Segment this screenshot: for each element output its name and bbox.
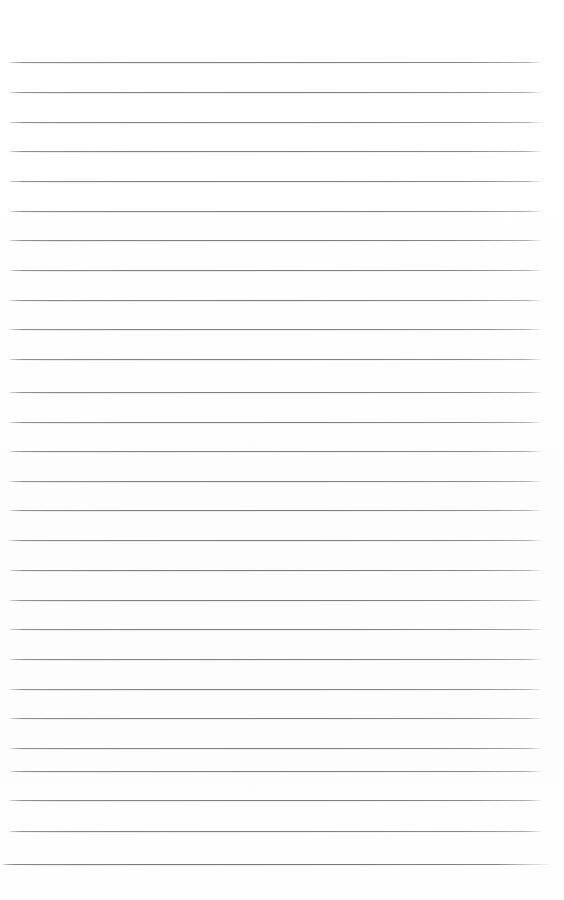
rule-line <box>8 392 543 393</box>
rule-line <box>8 329 543 330</box>
rule-line <box>8 422 543 423</box>
scanned-page <box>0 0 564 900</box>
rule-line <box>8 211 543 212</box>
rule-line <box>8 748 543 749</box>
rule-line <box>8 181 543 182</box>
rule-line <box>8 240 543 241</box>
rule-line <box>8 718 543 719</box>
rule-line <box>8 600 543 601</box>
rule-line <box>8 300 543 301</box>
rule-line <box>8 270 543 271</box>
rule-line <box>8 540 543 541</box>
rule-line <box>8 62 543 63</box>
rule-line <box>8 629 543 630</box>
rule-line <box>8 510 543 511</box>
rule-line <box>8 481 543 482</box>
ruled-lines-layer <box>0 0 564 900</box>
rule-line <box>8 359 543 360</box>
rule-line <box>8 451 543 452</box>
rule-line <box>8 92 543 93</box>
rule-line <box>8 689 543 690</box>
rule-line <box>8 800 543 801</box>
rule-line <box>8 771 543 772</box>
rule-line <box>8 122 543 123</box>
rule-line <box>8 831 543 832</box>
rule-line <box>2 864 552 865</box>
rule-line <box>8 659 543 660</box>
rule-line <box>8 570 543 571</box>
rule-line <box>8 151 543 152</box>
